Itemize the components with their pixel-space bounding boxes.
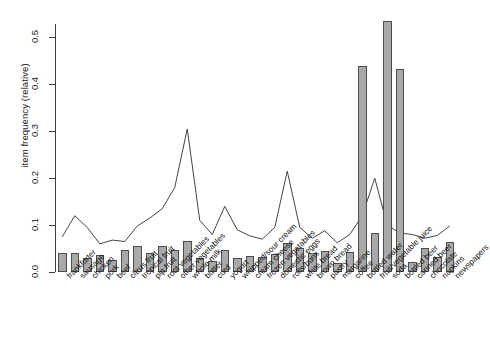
y-axis-tick	[49, 225, 55, 226]
y-axis-tick-label: 0.4	[29, 72, 40, 96]
y-axis-tick	[49, 272, 55, 273]
bar	[383, 21, 392, 272]
y-axis-tick	[49, 37, 55, 38]
y-axis-tick	[49, 131, 55, 132]
x-axis-labels: frankfurtersausagechickenporkbeefcitrus …	[56, 274, 456, 360]
plot-area	[56, 14, 456, 272]
y-axis-tick-label: 0.2	[29, 166, 40, 190]
bar	[358, 66, 367, 272]
y-axis-tick	[49, 84, 55, 85]
y-axis-tick	[49, 178, 55, 179]
bar	[58, 253, 67, 272]
line-path	[62, 129, 450, 244]
y-axis-tick-label: 0.3	[29, 119, 40, 143]
y-axis-tick-label: 0.1	[29, 213, 40, 237]
y-axis-tick-label: 0.5	[29, 25, 40, 49]
y-axis-tick-label: 0.0	[29, 260, 40, 284]
